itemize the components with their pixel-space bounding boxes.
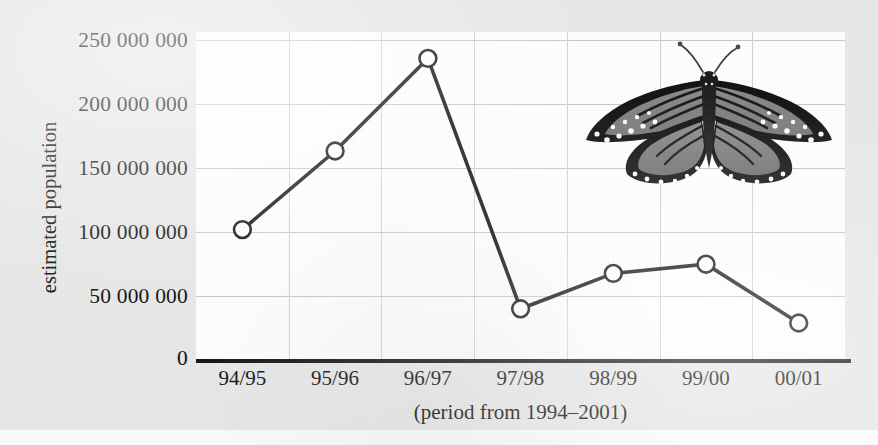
data-point-00-01[interactable] <box>790 315 807 332</box>
data-series <box>196 32 845 360</box>
x-tick-label-95-96: 95/96 <box>289 368 382 389</box>
data-point-96-97[interactable] <box>420 50 437 67</box>
y-axis-title: estimated population <box>38 93 61 323</box>
series-line <box>242 58 798 323</box>
y-tick-label-250m: 250 000 000 <box>3 30 188 52</box>
chart-figure: 250 000 000 200 000 000 150 000 000 100 … <box>0 0 878 445</box>
x-axis-title: (period from 1994–2001) <box>196 400 845 425</box>
data-point-98-99[interactable] <box>605 265 622 282</box>
x-tick-label-96-97: 96/97 <box>381 368 474 389</box>
x-tick-label-94-95: 94/95 <box>196 368 289 389</box>
y-tick-label-150m: 150 000 000 <box>3 158 188 180</box>
data-point-95-96[interactable] <box>327 143 344 160</box>
y-tick-label-50m: 50 000 000 <box>3 286 188 308</box>
x-tick-label-99-00: 99/00 <box>660 368 753 389</box>
x-tick-label-98-99: 98/99 <box>567 368 660 389</box>
y-tick-label-0: 0 <box>3 348 188 370</box>
y-tick-label-200m: 200 000 000 <box>3 94 188 116</box>
data-point-94-95[interactable] <box>234 221 251 238</box>
x-axis-line <box>196 359 851 363</box>
x-tick-label-97-98: 97/98 <box>474 368 567 389</box>
data-point-99-00[interactable] <box>698 256 715 273</box>
y-axis-tick-labels: 250 000 000 200 000 000 150 000 000 100 … <box>0 0 188 445</box>
page-bottom-margin <box>0 430 878 445</box>
data-point-97-98[interactable] <box>512 300 529 317</box>
y-tick-label-100m: 100 000 000 <box>3 222 188 244</box>
x-tick-label-00-01: 00/01 <box>752 368 845 389</box>
